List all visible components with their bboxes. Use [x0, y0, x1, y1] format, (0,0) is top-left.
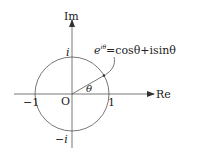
- angle-theta-label: θ: [86, 83, 92, 94]
- neg-one-label: −1: [23, 96, 39, 109]
- origin-label: O: [61, 95, 70, 108]
- pos-one-label: 1: [108, 96, 115, 109]
- point-on-circle: [103, 74, 106, 77]
- real-axis-label: Re: [156, 88, 171, 101]
- euler-formula: eiθ=cosθ+isinθ: [94, 43, 176, 57]
- euler-unit-circle-diagram: Im Re O i −i −1 1 θ eiθ=cosθ+isinθ: [0, 0, 199, 158]
- imag-axis-label: Im: [64, 10, 79, 23]
- pos-i-label: i: [66, 46, 70, 59]
- pointer-curve: [106, 57, 115, 75]
- neg-i-label: −i: [55, 133, 68, 146]
- formula-rhs: =cosθ+isinθ: [106, 44, 176, 57]
